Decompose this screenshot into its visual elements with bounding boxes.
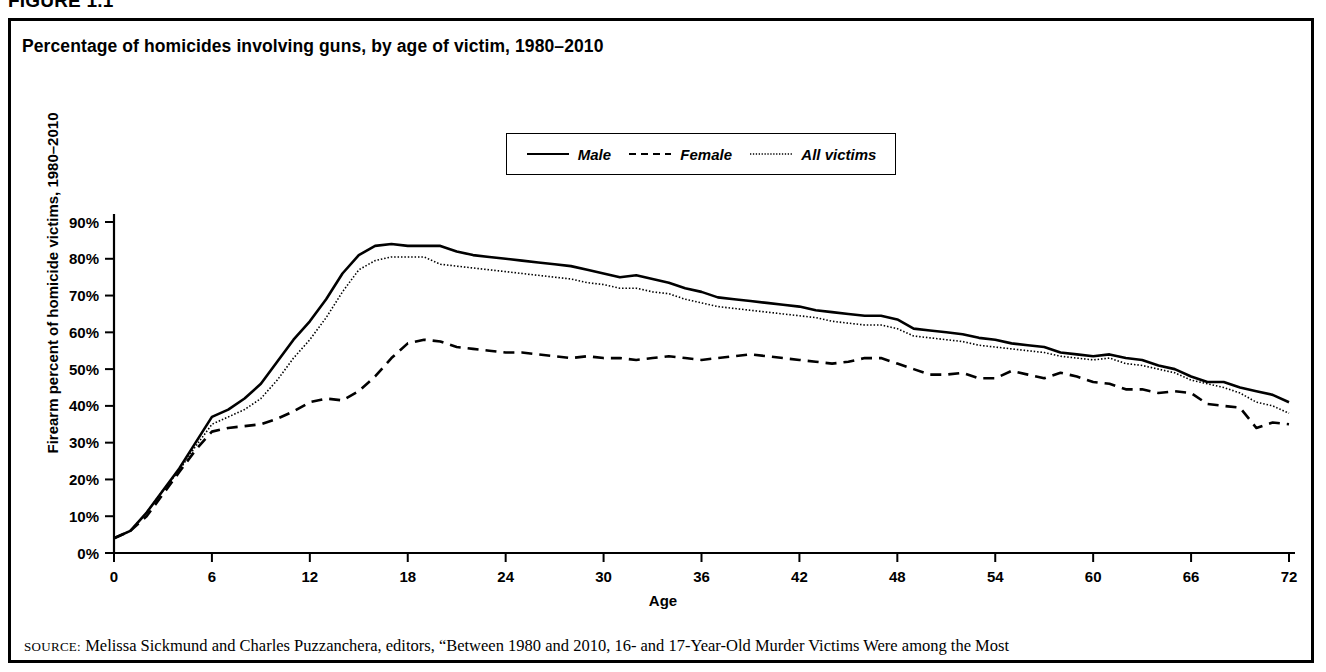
source-prefix: SOURCE: <box>24 639 81 654</box>
dashed-line-icon <box>628 148 672 160</box>
legend-label-female: Female <box>680 146 732 163</box>
solid-line-icon <box>526 148 570 160</box>
legend-label-all-victims: All victims <box>801 146 876 163</box>
source-note: SOURCE: Melissa Sickmund and Charles Puz… <box>24 636 1294 657</box>
legend-item-male: Male <box>526 146 611 163</box>
figure-label: FIGURE 1.1 <box>8 0 113 12</box>
figure-box <box>8 18 1314 663</box>
dotted-line-icon <box>749 148 793 160</box>
figure-root: FIGURE 1.1 Percentage of homicides invol… <box>0 0 1326 672</box>
x-axis-label: Age <box>0 592 1326 609</box>
legend-label-male: Male <box>578 146 611 163</box>
source-text: Melissa Sickmund and Charles Puzzanchera… <box>81 636 1009 655</box>
y-axis-label: Firearm percent of homicide victims, 198… <box>44 114 61 454</box>
chart-title: Percentage of homicides involving guns, … <box>22 36 603 57</box>
legend-item-female: Female <box>628 146 732 163</box>
chart-legend: Male Female All victims <box>506 133 896 175</box>
legend-item-all-victims: All victims <box>749 146 876 163</box>
